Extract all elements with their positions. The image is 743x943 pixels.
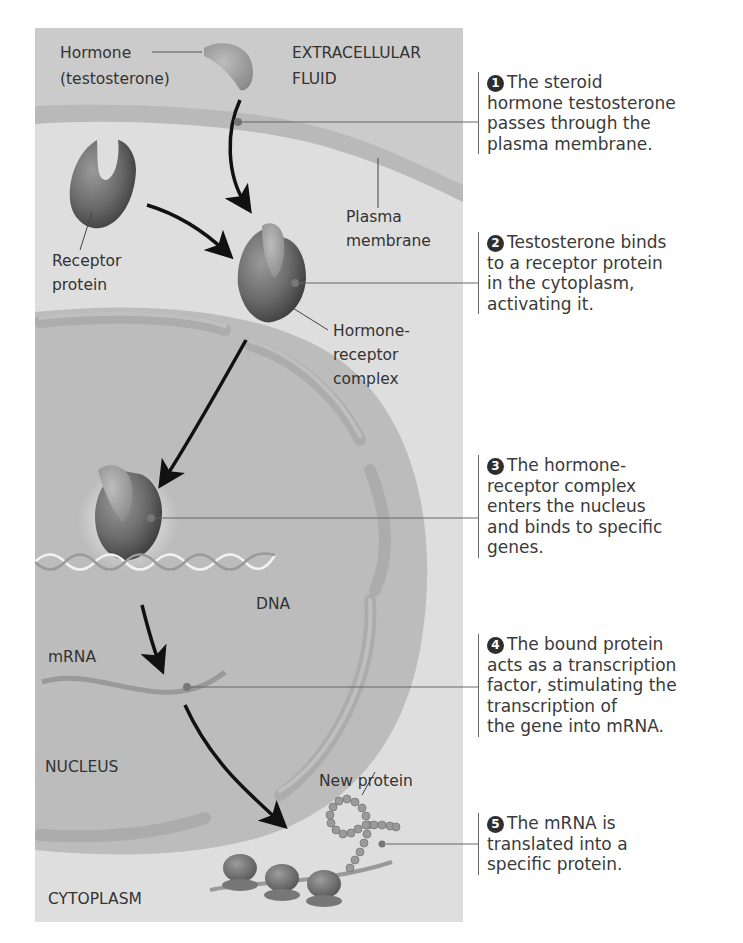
step-2-text: Testosterone binds to a receptor protein… [487, 232, 666, 314]
step-1: 1The steroid hormone testosterone passes… [478, 72, 676, 154]
label-nucleus: NUCLEUS [45, 758, 118, 776]
step-number-2-icon: 2 [487, 235, 504, 252]
step-4-text: The bound protein acts as a transcriptio… [487, 634, 677, 736]
step-number-4-icon: 4 [487, 637, 504, 654]
label-complex-3: complex [333, 370, 399, 388]
step-3-text: The hormone- receptor complex enters the… [487, 455, 662, 557]
label-complex-1: Hormone- [333, 322, 410, 340]
step-2: 2Testosterone binds to a receptor protei… [478, 232, 666, 314]
step-5: 5The mRNA is translated into a specific … [478, 813, 628, 875]
step-5-text: The mRNA is translated into a specific p… [487, 813, 628, 874]
step-1-text: The steroid hormone testosterone passes … [487, 72, 676, 154]
step-number-5-icon: 5 [487, 816, 504, 833]
label-hormone-sub: (testosterone) [60, 70, 170, 88]
label-plasma: Plasma [346, 208, 402, 226]
step-number-3-icon: 3 [487, 458, 504, 475]
label-cytoplasm: CYTOPLASM [48, 890, 142, 908]
label-hormone: Hormone [60, 44, 131, 62]
step-number-1-icon: 1 [487, 75, 504, 92]
label-new-protein: New protein [319, 772, 413, 790]
label-complex-2: receptor [333, 346, 398, 364]
step-3: 3The hormone- receptor complex enters th… [478, 455, 662, 558]
label-extracellular: EXTRACELLULAR [292, 44, 421, 62]
label-fluid: FLUID [292, 70, 337, 88]
label-membrane: membrane [346, 232, 431, 250]
label-protein: protein [52, 276, 107, 294]
label-receptor: Receptor [52, 252, 121, 270]
step-4: 4The bound protein acts as a transcripti… [478, 634, 677, 737]
label-mrna: mRNA [48, 648, 96, 666]
label-dna: DNA [256, 595, 290, 613]
